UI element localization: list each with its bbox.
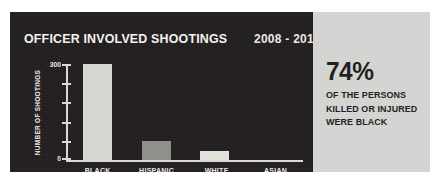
stat-line-1: OF THE PERSONS	[326, 88, 417, 102]
bar-group	[68, 64, 303, 160]
chart-title: OFFICER INVOLVED SHOOTINGS	[24, 31, 227, 46]
y-axis-tick-label-min: 0	[43, 154, 61, 163]
x-axis-line	[66, 160, 303, 162]
bar-slot-hispanic	[127, 64, 186, 160]
bar-slot-white	[186, 64, 245, 160]
stat-text-group: 74% OF THE PERSONS KILLED OR INJURED WER…	[326, 58, 424, 129]
stat-panel: 74% OF THE PERSONS KILLED OR INJURED WER…	[313, 12, 430, 172]
chart-year-range: 2008 - 2015	[254, 31, 313, 46]
x-axis-label-white: WHITE	[189, 166, 244, 172]
plot-area	[66, 64, 303, 162]
x-axis-label-asian: ASIAN	[248, 166, 303, 172]
stat-percentage: 74%	[326, 58, 418, 84]
bar-slot-black	[68, 64, 127, 160]
stat-line-2: KILLED OR INJURED	[326, 102, 417, 116]
x-axis-label-hispanic: HISPANIC	[130, 166, 185, 172]
x-axis-label-black: BLACK	[70, 166, 125, 172]
y-axis-label-text: NUMBER OF SHOOTINGS	[33, 69, 42, 154]
chart-title-group: OFFICER INVOLVED SHOOTINGS2008 - 2015	[24, 29, 313, 47]
y-axis-tick-label-max: 300	[43, 60, 61, 69]
bar-slot-asian	[244, 64, 303, 160]
infographic-container: OFFICER INVOLVED SHOOTINGS2008 - 2015 NU…	[10, 12, 430, 172]
y-axis-label: NUMBER OF SHOOTINGS	[31, 64, 43, 160]
x-axis-labels: BLACK HISPANIC WHITE ASIAN	[68, 166, 305, 172]
bar-black	[83, 64, 112, 160]
stat-line-3: WERE BLACK	[326, 115, 417, 129]
bar-white	[200, 151, 229, 160]
chart-panel: OFFICER INVOLVED SHOOTINGS2008 - 2015 NU…	[10, 12, 313, 172]
bar-hispanic	[142, 141, 171, 160]
